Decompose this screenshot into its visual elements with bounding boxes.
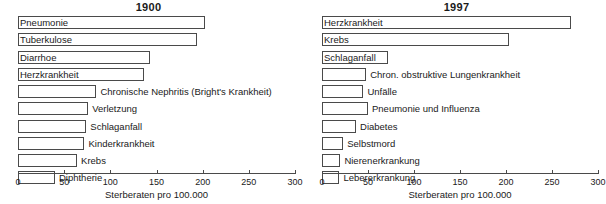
axis-tick — [460, 170, 461, 174]
axis-tick — [414, 170, 415, 174]
bar — [322, 102, 368, 115]
chart-panel-1997: 1997 HerzkrankheitKrebsSchlaganfallChron… — [303, 0, 606, 204]
bar-label: Herzkrankheit — [20, 68, 79, 81]
axis-tick-label: 200 — [195, 177, 210, 187]
bar-label: Nierenerkrankung — [340, 154, 420, 167]
bar-row: Krebs — [18, 154, 295, 167]
plot-area: HerzkrankheitKrebsSchlaganfallChron. obs… — [322, 16, 598, 173]
axis-tick-label: 300 — [590, 177, 605, 187]
bar-row: Selbstmord — [322, 137, 598, 150]
bar-label: Tuberkulose — [20, 33, 72, 46]
bar-row: Verletzung — [18, 102, 295, 115]
bar-row: Kinderkrankheit — [18, 137, 295, 150]
bar-row: Diabetes — [322, 120, 598, 133]
axis-tick-label: 100 — [406, 177, 421, 187]
x-axis-title: Sterberaten pro 100.000 — [322, 189, 598, 200]
axis-tick — [506, 170, 507, 174]
bar-row: Schlaganfall — [18, 120, 295, 133]
bar-label: Selbstmord — [343, 137, 395, 150]
x-axis-title: Sterberaten pro 100.000 — [18, 189, 295, 200]
bar — [322, 85, 363, 98]
bar-label: Schlaganfall — [324, 51, 376, 64]
bar-row: Chronische Nephritis (Bright's Krankheit… — [18, 85, 295, 98]
figure-root: 1900 PneumonieTuberkuloseDiarrhoeHerzkra… — [0, 0, 606, 204]
bar-label: Krebs — [77, 154, 106, 167]
x-axis: Sterberaten pro 100.000 0501001502002503… — [322, 173, 598, 204]
axis-tick — [64, 170, 65, 174]
bar-row: Schlaganfall — [322, 51, 598, 64]
bar-label: Pneumonie und Influenza — [368, 102, 480, 115]
bar-label: Chron. obstruktive Lungenkrankheit — [366, 68, 520, 81]
bar-row: Tuberkulose — [18, 33, 295, 46]
bar-row: Chron. obstruktive Lungenkrankheit — [322, 68, 598, 81]
bar-label: Verletzung — [88, 102, 137, 115]
bar-label: Krebs — [324, 33, 349, 46]
bar-row: Pneumonie und Influenza — [322, 102, 598, 115]
x-axis: Sterberaten pro 100.000 0501001502002503… — [18, 173, 295, 204]
bar-row: Herzkrankheit — [18, 68, 295, 81]
bar — [322, 120, 356, 133]
plot-area: PneumonieTuberkuloseDiarrhoeHerzkrankhei… — [18, 16, 295, 173]
bar-label: Herzkrankheit — [324, 16, 383, 29]
bar-row: Herzkrankheit — [322, 16, 598, 29]
chart-title: 1900 — [0, 1, 300, 13]
bar — [18, 120, 86, 133]
axis-tick-label: 50 — [363, 177, 373, 187]
bar-label: Kinderkrankheit — [84, 137, 154, 150]
axis-tick-label: 250 — [544, 177, 559, 187]
bar-label: Diabetes — [356, 120, 398, 133]
axis-tick — [249, 170, 250, 174]
axis-tick-label: 250 — [241, 177, 256, 187]
bar — [18, 137, 84, 150]
bar-label: Diarrhoe — [20, 51, 56, 64]
axis-tick — [110, 170, 111, 174]
bar-row: Pneumonie — [18, 16, 295, 29]
bar — [322, 137, 343, 150]
axis-tick — [295, 170, 296, 174]
bar-label: Chronische Nephritis (Bright's Krankheit… — [96, 85, 271, 98]
bar — [18, 102, 88, 115]
axis-tick-label: 200 — [498, 177, 513, 187]
axis-tick-label: 0 — [15, 177, 20, 187]
axis-tick-label: 300 — [287, 177, 302, 187]
axis-tick-label: 150 — [452, 177, 467, 187]
axis-tick — [598, 170, 599, 174]
axis-tick-label: 100 — [103, 177, 118, 187]
bar — [322, 68, 366, 81]
axis-tick — [157, 170, 158, 174]
axis-tick — [203, 170, 204, 174]
bar-label: Unfälle — [363, 85, 397, 98]
bar-label: Schlaganfall — [86, 120, 142, 133]
axis-tick — [368, 170, 369, 174]
bar-label: Pneumonie — [20, 16, 68, 29]
axis-tick-label: 150 — [149, 177, 164, 187]
chart-title: 1997 — [305, 1, 606, 13]
axis-tick-label: 0 — [319, 177, 324, 187]
bar-row: Unfälle — [322, 85, 598, 98]
bar-row: Krebs — [322, 33, 598, 46]
bar-row: Nierenerkrankung — [322, 154, 598, 167]
bar — [18, 85, 96, 98]
axis-tick-label: 50 — [59, 177, 69, 187]
bar-row: Diarrhoe — [18, 51, 295, 64]
chart-panel-1900: 1900 PneumonieTuberkuloseDiarrhoeHerzkra… — [0, 0, 303, 204]
bar — [18, 154, 77, 167]
axis-tick — [552, 170, 553, 174]
bar — [322, 33, 509, 46]
bar — [322, 154, 340, 167]
